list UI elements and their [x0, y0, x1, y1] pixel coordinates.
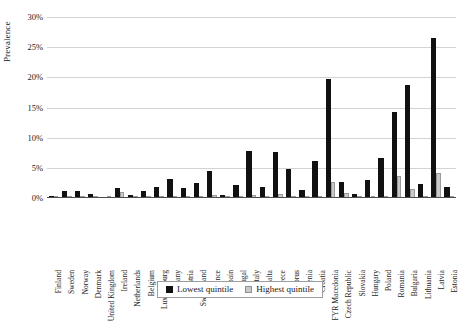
bar-group: [324, 17, 337, 198]
y-tick-label: 15%: [27, 103, 43, 112]
category-label: Norway: [82, 270, 90, 294]
bar-group: [73, 17, 86, 198]
legend-swatch-icon-highest: [245, 286, 252, 293]
bar-group: [284, 17, 297, 198]
bar-lowest-quintile: [378, 158, 383, 198]
bar-lowest-quintile: [286, 169, 291, 198]
y-tick-label: 5%: [32, 164, 43, 173]
bar-group: [232, 17, 245, 198]
category-label: Belgium: [148, 270, 156, 296]
bar-group: [403, 17, 416, 198]
legend-item-highest-quintile: Highest quintile: [245, 284, 314, 294]
bar-group: [430, 17, 443, 198]
bar-highest-quintile: [436, 173, 440, 198]
bar-highest-quintile: [331, 182, 335, 198]
category-label: Hungary: [372, 270, 380, 297]
y-tick-label: 10%: [27, 133, 43, 142]
category-label: Lithuania: [425, 270, 433, 299]
y-tick-label: 0%: [32, 194, 43, 203]
bar-group: [311, 17, 324, 198]
bar-group: [337, 17, 350, 198]
bar-group: [416, 17, 429, 198]
y-tick-label: 25%: [27, 43, 43, 52]
bar-lowest-quintile: [312, 161, 317, 198]
bar-group: [153, 17, 166, 198]
bar-lowest-quintile: [273, 152, 278, 198]
category-label: Denmark: [95, 270, 103, 298]
legend-swatch-icon-lowest: [166, 286, 173, 293]
category-label: Romania: [398, 270, 406, 297]
bar-lowest-quintile: [326, 79, 331, 198]
category-label: Latvia: [438, 270, 446, 289]
bar-group: [192, 17, 205, 198]
bar-group: [350, 17, 363, 198]
bar-group: [205, 17, 218, 198]
category-label: Finland: [55, 270, 63, 293]
bar-group: [113, 17, 126, 198]
y-axis-title: Prevalence: [2, 0, 12, 62]
category-label: FYR Macedonia: [332, 270, 340, 320]
y-tick-label: 30%: [27, 13, 43, 22]
category-label: Estonia: [451, 270, 459, 293]
bar-group: [179, 17, 192, 198]
category-label: Ireland: [121, 270, 129, 292]
x-axis-line: [47, 197, 456, 198]
category-label: Slovakia: [359, 270, 367, 297]
legend-item-lowest-quintile: Lowest quintile: [166, 284, 233, 294]
bar-group: [364, 17, 377, 198]
category-label: Poland: [385, 270, 393, 291]
category-label: Sweden: [68, 270, 76, 294]
bar-group: [298, 17, 311, 198]
bar-group: [219, 17, 232, 198]
bar-group: [258, 17, 271, 198]
legend-label-lowest: Lowest quintile: [177, 284, 233, 294]
bar-group: [166, 17, 179, 198]
bar-group: [390, 17, 403, 198]
category-label: Netherlands: [134, 270, 142, 307]
category-label: Bulgaria: [411, 270, 419, 296]
bar-group: [47, 17, 60, 198]
bar-group: [139, 17, 152, 198]
bar-group: [60, 17, 73, 198]
legend-label-highest: Highest quintile: [256, 284, 314, 294]
bar-group: [443, 17, 456, 198]
bar-group: [87, 17, 100, 198]
legend: Lowest quintile Highest quintile: [157, 281, 323, 298]
bars-layer: [47, 17, 456, 198]
bar-lowest-quintile: [246, 151, 251, 198]
bar-group: [245, 17, 258, 198]
y-tick-label: 20%: [27, 73, 43, 82]
category-labels: FinlandSwedenNorwayDenmarkUnited Kingdom…: [47, 200, 456, 272]
bar-group: [271, 17, 284, 198]
bar-lowest-quintile: [207, 171, 212, 198]
bar-lowest-quintile: [405, 85, 410, 198]
category-label: Czech Republic: [345, 270, 353, 318]
bar-group: [377, 17, 390, 198]
bar-group: [100, 17, 113, 198]
bar-group: [126, 17, 139, 198]
bar-highest-quintile: [397, 176, 401, 198]
category-label: United Kingdom: [108, 270, 116, 321]
plot-area: 0%5%10%15%20%25%30%: [47, 17, 456, 198]
